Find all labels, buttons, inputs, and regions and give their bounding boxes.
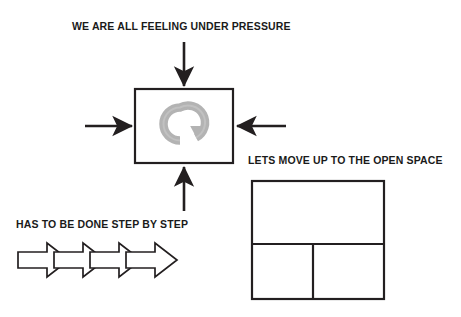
pressure-box <box>135 89 233 163</box>
diagram-canvas: WE ARE ALL FEELING UNDER PRESSURE LETS M… <box>0 0 461 317</box>
chevron-arrow-chain <box>18 243 177 277</box>
diagram-graphics <box>0 0 461 317</box>
chevron-arrow-4 <box>126 243 177 277</box>
open-space-grid <box>252 181 384 299</box>
open-space-grid-outline <box>252 181 384 299</box>
